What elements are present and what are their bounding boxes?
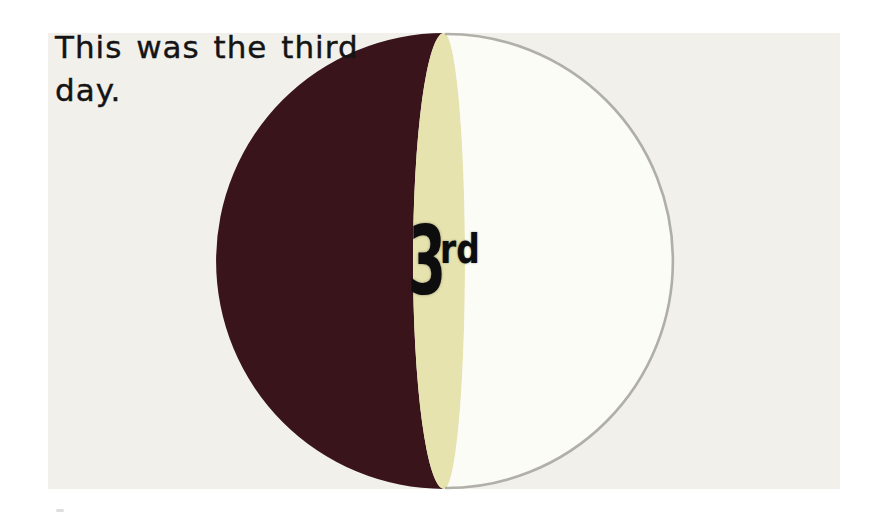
caption-text: This was the third day. — [55, 26, 407, 112]
scanned-page: This was the third day. 3 rd — [0, 0, 885, 518]
ordinal-label: 3 rd — [408, 227, 488, 297]
ordinal-suffix: rd — [440, 233, 480, 265]
ordinal-number: 3 — [408, 227, 439, 297]
scan-artifact-speck — [56, 509, 64, 512]
